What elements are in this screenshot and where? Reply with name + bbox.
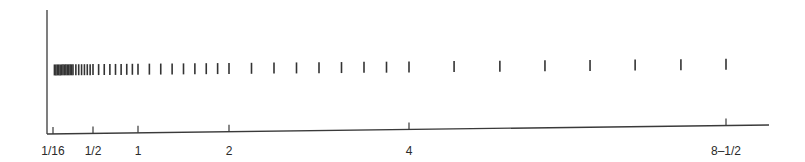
x-tick-label: 8–1/2 [711, 144, 741, 158]
rug-plot: 1/161/21248–1/2 [0, 0, 805, 162]
x-tick-label: 1/2 [85, 144, 102, 158]
x-axis-line [47, 125, 769, 134]
rug-marks [54, 59, 726, 76]
x-tick-label: 2 [226, 144, 233, 158]
x-tick-label: 4 [406, 144, 413, 158]
x-axis-ticks: 1/161/21248–1/2 [41, 119, 741, 158]
x-tick-label: 1 [135, 144, 142, 158]
x-tick-label: 1/16 [41, 144, 65, 158]
